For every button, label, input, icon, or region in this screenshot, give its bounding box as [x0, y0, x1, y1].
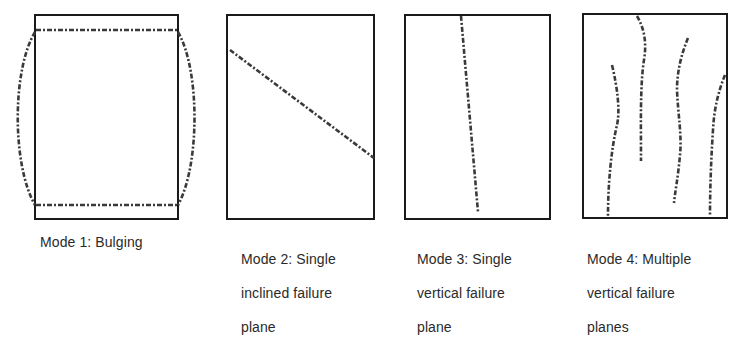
- caption-line: Mode 3: Single: [417, 251, 567, 268]
- caption-line: planes: [587, 319, 752, 336]
- specimen-frame: [405, 15, 550, 219]
- inclined-failure-plane: [230, 50, 374, 158]
- left-bulge-curve: [18, 32, 35, 205]
- right-bulge-curve: [178, 32, 195, 205]
- caption-line: plane: [241, 319, 391, 336]
- vertical-failure-plane: [461, 16, 478, 212]
- failure-plane-3: [674, 38, 688, 203]
- caption-line: inclined failure: [241, 285, 391, 302]
- caption-mode-4: Mode 4: Multiple vertical failure planes: [587, 234, 752, 339]
- failure-plane-2: [637, 16, 645, 161]
- specimen-frame: [35, 15, 178, 219]
- specimen-frame: [227, 15, 374, 219]
- specimen-frame: [583, 14, 727, 218]
- caption-line: plane: [417, 319, 567, 336]
- panel-mode-2: [227, 15, 374, 219]
- caption-mode-3: Mode 3: Single vertical failure plane: [417, 234, 567, 339]
- caption-line: Mode 4: Multiple: [587, 251, 752, 268]
- panel-mode-3: [405, 15, 550, 219]
- caption-mode-1: Mode 1: Bulging: [40, 234, 210, 251]
- failure-plane-4: [710, 75, 725, 216]
- failure-plane-1: [608, 65, 618, 216]
- panel-mode-1: [18, 15, 195, 219]
- caption-line: vertical failure: [417, 285, 567, 302]
- caption-line: vertical failure: [587, 285, 752, 302]
- caption-line: Mode 2: Single: [241, 251, 391, 268]
- caption-mode-2: Mode 2: Single inclined failure plane: [241, 234, 391, 339]
- panel-mode-4: [583, 14, 727, 218]
